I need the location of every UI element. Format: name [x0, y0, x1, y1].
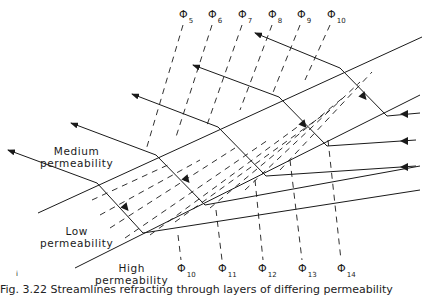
phi-7: Φ7: [238, 8, 251, 21]
streamline-d: [156, 155, 205, 205]
low-permeability-label: Low permeability: [40, 225, 113, 249]
streamline-c: [218, 127, 416, 176]
streamline-b-exit: [193, 65, 279, 97]
streamline-a: [340, 68, 420, 116]
medium-permeability-label: Medium permeability: [40, 145, 113, 169]
streamline-b: [279, 97, 416, 146]
phi-13: Φ13: [298, 262, 316, 275]
equipotential-lines: [92, 25, 372, 260]
phi-11: Φ11: [218, 262, 236, 275]
phi-14: Φ14: [337, 262, 355, 275]
streamline-a-exit: [255, 33, 340, 68]
phi-8: Φ8: [268, 8, 281, 21]
upper-interface-line: [38, 37, 422, 213]
phi-10-bottom: Φ10: [177, 262, 195, 275]
phi-9: Φ9: [297, 8, 310, 21]
small-mark: i: [16, 270, 18, 278]
high-perm-line-1: [143, 190, 420, 233]
phi-12: Φ12: [258, 262, 276, 275]
phi-10-top: Φ10: [327, 8, 345, 21]
phi-6: Φ6: [208, 8, 221, 21]
phi-5: Φ5: [179, 8, 192, 21]
lower-interface-line: [75, 95, 420, 268]
figure-caption: Fig. 3.22 Streamlines refracting through…: [0, 283, 432, 296]
streamline-c-exit: [132, 94, 218, 127]
